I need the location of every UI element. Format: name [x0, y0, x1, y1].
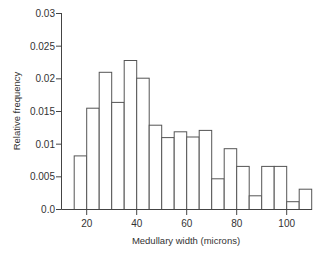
x-axis-ticks: 20406080100 [81, 210, 295, 230]
histogram-bar [74, 156, 87, 210]
y-tick-label: 0.005 [30, 171, 55, 182]
histogram-bar [162, 138, 175, 210]
x-tick-label: 60 [181, 218, 193, 229]
x-tick-label: 40 [131, 218, 143, 229]
histogram-bar [174, 132, 187, 210]
histogram-bar [299, 189, 312, 209]
y-axis-ticks: 0.00.0050.010.0150.020.0250.03 [30, 8, 62, 215]
y-tick-label: 0.02 [36, 73, 56, 84]
x-tick-label: 80 [231, 218, 243, 229]
x-axis-label: Medullary width (microns) [132, 235, 240, 246]
histogram-bar [237, 166, 250, 209]
y-tick-label: 0.03 [36, 8, 56, 19]
histogram-bar [87, 108, 100, 209]
histogram-bar [287, 202, 300, 210]
histogram-bar [199, 130, 212, 209]
histogram-bar [149, 125, 162, 209]
histogram-bar [224, 149, 237, 210]
histogram-bar [274, 166, 287, 209]
histogram-bar [249, 196, 262, 210]
y-tick-label: 0.01 [36, 139, 56, 150]
x-tick-label: 20 [81, 218, 93, 229]
histogram-bars [74, 61, 312, 210]
y-tick-label: 0.015 [30, 106, 55, 117]
histogram-bar [124, 61, 137, 210]
histogram-bar [99, 72, 112, 209]
histogram-bar [137, 78, 150, 209]
histogram-bar [112, 102, 125, 209]
y-tick-label: 0.0 [41, 204, 55, 215]
x-tick-label: 100 [278, 218, 295, 229]
histogram-chart: 0.00.0050.010.0150.020.0250.03 204060801… [0, 0, 324, 253]
y-tick-label: 0.025 [30, 41, 55, 52]
y-axis-label: Relative frequency [11, 71, 22, 150]
histogram-bar [212, 179, 225, 210]
histogram-bar [187, 137, 200, 210]
histogram-bar [262, 166, 275, 209]
